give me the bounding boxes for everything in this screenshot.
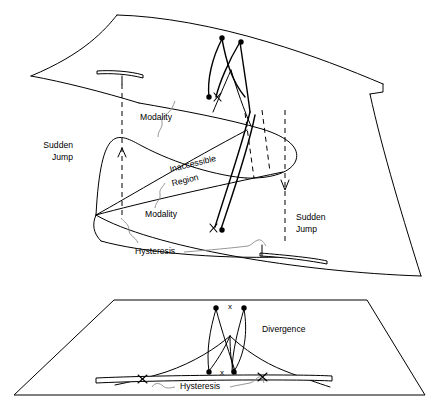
surface-front-left-lip <box>94 215 101 241</box>
surface-right-edge <box>370 84 383 94</box>
control-hysteresis-leader-left <box>152 384 175 389</box>
label-sudden-jump-left-line2: Jump <box>52 152 73 162</box>
label-sudden-jump-left-line1: Sudden <box>43 140 73 150</box>
label-hysteresis-upper: Hysteresis <box>135 246 175 256</box>
manifold-trajectory-descend-a <box>215 112 250 227</box>
label-modality-upper: Modality <box>140 112 173 122</box>
manifold-trajectory-left <box>209 39 222 97</box>
label-inaccessible-line1: Inaccessible <box>169 153 218 174</box>
control-trajectory-b <box>216 309 236 374</box>
upper-control-sliver <box>97 71 143 78</box>
label-hysteresis-lower: Hysteresis <box>180 381 220 391</box>
control-x-label-top: x <box>228 302 232 311</box>
control-dot-bottom-right <box>231 369 236 374</box>
control-x-label-bottom: x <box>220 368 224 377</box>
manifold-trajectory-descend-b <box>221 115 255 229</box>
manifold-dot-mid-left <box>206 94 211 99</box>
fold-dashed-line-b <box>262 110 270 172</box>
control-dot-top-left <box>213 305 218 310</box>
upper-fold-return <box>96 137 246 215</box>
hysteresis-leader-right <box>184 240 266 252</box>
surface-right-outer-fall <box>370 94 421 276</box>
control-dot-top-right <box>241 305 246 310</box>
label-sudden-jump-right-line2: Jump <box>296 224 317 234</box>
manifold-dot-bottom <box>219 227 224 232</box>
control-dot-bottom-left <box>206 369 211 374</box>
manifold-trajectory-left2 <box>222 39 245 97</box>
surface-top-back-edge <box>117 15 383 84</box>
manifold-dot-top-left <box>219 35 224 40</box>
surface-left-lower-edge <box>31 76 139 103</box>
control-trajectory-c <box>232 309 244 372</box>
lower-fold-curve <box>101 241 281 257</box>
label-divergence: Divergence <box>262 324 306 334</box>
label-modality-lower: Modality <box>145 209 178 219</box>
control-trajectory-e <box>209 336 230 371</box>
label-sudden-jump-right-line1: Sudden <box>296 212 326 222</box>
upper-panel-group: Sudden Jump Modality Inaccessible Region… <box>31 15 421 276</box>
lower-panel-group: x x Divergence Hysteresis <box>14 300 425 395</box>
manifold-x-marker-lower <box>210 224 217 232</box>
manifold-dot-top-right <box>238 39 243 44</box>
label-inaccessible-line2: Region <box>171 172 200 188</box>
modality-lower-leader <box>155 183 165 208</box>
manifold-trajectory-wedge-left <box>213 70 231 112</box>
cusp-diagram-canvas: Sudden Jump Modality Inaccessible Region… <box>0 0 445 416</box>
cusp-catastrophe-figure: Sudden Jump Modality Inaccessible Region… <box>0 0 445 416</box>
surface-left-back-edge <box>31 15 117 76</box>
